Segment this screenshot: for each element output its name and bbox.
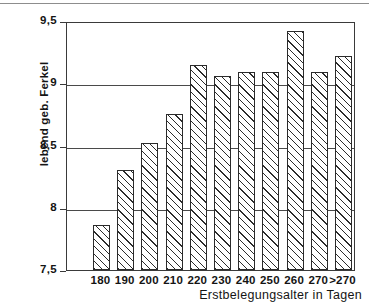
bar <box>141 143 158 270</box>
bar <box>190 65 207 270</box>
x-tick-label: >270 <box>327 274 359 286</box>
y-tick-label: 9 <box>50 76 57 88</box>
bar <box>117 170 134 270</box>
bar <box>214 76 231 270</box>
header-divider <box>0 3 369 4</box>
bar-series <box>67 23 354 270</box>
plot-area <box>66 22 355 271</box>
bar <box>238 72 255 270</box>
y-tick-mark <box>60 209 66 210</box>
y-tick-mark <box>60 147 66 148</box>
y-tick-mark <box>60 84 66 85</box>
chart-figure: lebend geb. Ferkel 7,588,599,5 180190200… <box>0 0 369 306</box>
y-tick-mark <box>60 271 66 272</box>
y-tick-label: 7,5 <box>40 263 57 275</box>
bar <box>311 72 328 270</box>
y-tick-label: 8,5 <box>40 139 57 151</box>
y-tick-mark <box>60 22 66 23</box>
y-axis-title: lebend geb. Ferkel <box>38 24 50 204</box>
y-tick-label: 9,5 <box>40 14 57 26</box>
x-axis-title: Erstbelegungsalter in Tagen <box>0 288 362 302</box>
bar <box>166 114 183 270</box>
bar <box>335 56 352 270</box>
bar <box>262 72 279 270</box>
bar <box>287 31 304 270</box>
y-tick-label: 8 <box>50 201 57 213</box>
bar <box>93 225 110 270</box>
